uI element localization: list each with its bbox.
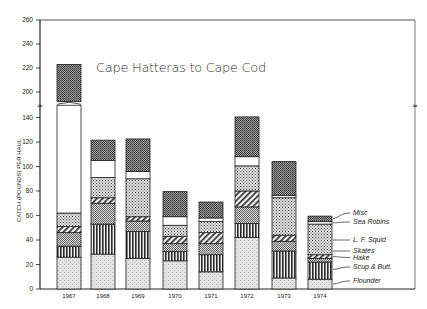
bar-segment-skates — [235, 191, 259, 207]
bar-segment-l-f-squid — [163, 225, 187, 236]
bar-segment-l-f-squid — [57, 213, 81, 226]
bar-segment-scup-butt — [57, 246, 81, 257]
bar-segment-skates — [57, 227, 81, 233]
right-axis-break-marker: ≈ — [412, 102, 418, 110]
legend-leader-line — [333, 281, 350, 284]
x-tick-label: 1971 — [204, 293, 218, 299]
y-tick-label: 260 — [22, 16, 33, 23]
legend-item: L. F. Squid — [353, 236, 387, 244]
bar-segment-sea-robins — [163, 217, 187, 226]
bar-segment-sea-robins — [91, 160, 115, 177]
x-tick-labels: 19671968196919701971197219731974 — [62, 293, 327, 299]
legend-item: Misc — [353, 209, 368, 216]
bar-segment-misc — [91, 140, 115, 160]
legend: MiscSea RobinsL. F. SquidSkatesHakeScup … — [333, 209, 392, 284]
bar-segment-misc — [57, 64, 81, 101]
y-tick-label: 100 — [22, 163, 33, 170]
bar-chart: ≈ ≈ 020406080100120140200220240260 19671… — [0, 0, 427, 309]
x-tick-label: 1972 — [240, 293, 254, 299]
y-tick-label: 0 — [29, 285, 33, 292]
bar-segment-hake — [163, 244, 187, 252]
bar-segment-hake — [91, 203, 115, 224]
bar-segment-misc — [199, 202, 223, 218]
legend-item: Flounder — [353, 277, 381, 284]
bar-segment-l-f-squid — [199, 222, 223, 233]
bar-segment-scup-butt — [308, 262, 332, 279]
y-axis-break-marker: ≈ — [37, 102, 43, 110]
bar-segment-flounder — [272, 278, 296, 289]
y-ticks: 020406080100120140200220240260 — [22, 16, 40, 292]
bar-segment-skates — [126, 217, 150, 221]
bar-segment-misc — [272, 162, 296, 196]
bar-segment-l-f-squid — [235, 166, 259, 191]
bar-segment-sea-robins — [57, 105, 81, 213]
y-tick-label: 240 — [22, 40, 33, 47]
bar-segment-l-f-squid — [272, 198, 296, 235]
bar-segment-hake — [57, 233, 81, 246]
bar-segment-hake — [235, 207, 259, 224]
bar-segment-skates — [272, 235, 296, 241]
bar-segment-misc — [163, 192, 187, 217]
bar-segment-hake — [308, 258, 332, 262]
y-tick-label: 40 — [26, 236, 34, 243]
bar-segment-sea-robins — [126, 171, 150, 178]
y-tick-label: 220 — [22, 64, 33, 71]
x-tick-label: 1970 — [168, 293, 182, 299]
bar-1973 — [272, 162, 296, 289]
legend-leader-line — [333, 257, 350, 258]
bar-segment-misc — [235, 117, 259, 157]
bar-segment-flounder — [163, 261, 187, 289]
legend-leader-line — [333, 222, 350, 223]
bar-segment-scup-butt — [163, 252, 187, 261]
bar-1970 — [163, 192, 187, 289]
bar-segment-l-f-squid — [308, 224, 332, 255]
y-tick-label: 80 — [26, 187, 34, 194]
y-tick-label: 20 — [26, 261, 34, 268]
legend-item: Scup & Butt. — [353, 263, 392, 271]
bar-segment-skates — [163, 236, 187, 243]
bar-segment-l-f-squid — [91, 178, 115, 198]
chart-title: Cape Hatteras to Cape Cod — [96, 60, 266, 75]
legend-leader-line — [333, 267, 350, 269]
bar-segment-skates — [199, 233, 223, 244]
bar-segment-skates — [91, 198, 115, 204]
bar-segment-sea-robins — [235, 157, 259, 166]
bar-segment-scup-butt — [235, 223, 259, 237]
y-tick-label: 60 — [26, 212, 34, 219]
bar-segment-flounder — [126, 258, 150, 289]
bar-segment-scup-butt — [272, 251, 296, 278]
bar-1967 — [57, 64, 81, 289]
bar-segment-sea-robins — [199, 218, 223, 222]
legend-leader-line — [333, 213, 350, 219]
bar-segment-hake — [272, 241, 296, 251]
bar-1974 — [308, 216, 332, 289]
bar-segment-l-f-squid — [126, 179, 150, 217]
bar-segment-scup-butt — [199, 255, 223, 272]
bar-segment-flounder — [308, 279, 332, 289]
x-tick-label: 1969 — [131, 293, 145, 299]
x-tick-label: 1968 — [96, 293, 110, 299]
x-tick-label: 1974 — [313, 293, 327, 299]
bar-1971 — [199, 202, 223, 289]
bar-1972 — [235, 117, 259, 289]
bar-segment-flounder — [57, 257, 81, 289]
bar-segment-hake — [199, 244, 223, 255]
bar-segment-flounder — [235, 238, 259, 289]
bar-segment-flounder — [91, 254, 115, 289]
bar-segment-hake — [126, 221, 150, 231]
y-axis-label: CATCH (POUNDS) PER HAUL — [16, 138, 22, 222]
bar-segment-skates — [308, 255, 332, 259]
x-tick-label: 1967 — [62, 293, 76, 299]
bars — [57, 64, 332, 289]
y-tick-label: 120 — [22, 138, 33, 145]
legend-item: Hake — [353, 254, 369, 261]
bar-segment-misc — [126, 139, 150, 171]
y-tick-label: 140 — [22, 114, 33, 121]
x-tick-label: 1973 — [277, 293, 291, 299]
bar-segment-misc — [308, 216, 332, 222]
y-tick-label: 200 — [22, 88, 33, 95]
bar-1968 — [91, 140, 115, 289]
bar-segment-flounder — [199, 272, 223, 289]
legend-item: Sea Robins — [353, 218, 390, 225]
bar-segment-scup-butt — [126, 231, 150, 258]
